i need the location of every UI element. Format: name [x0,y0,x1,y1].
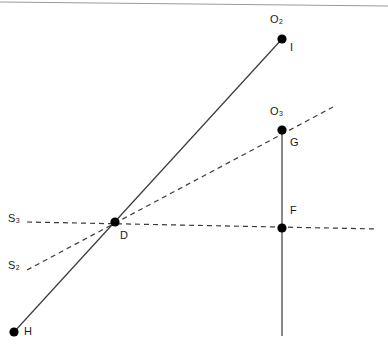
diagram-canvas [0,0,388,349]
point-label-I: I [290,42,293,53]
top-border-line [0,2,388,6]
point-dot-O3-G [277,125,286,134]
point-label-F: F [290,205,297,216]
line-segment-S3 [27,222,378,229]
line-segment-S2 [27,107,333,270]
point-dot-F [277,223,286,232]
point-label-S2: S₂ [8,260,20,271]
point-label-O3: O₃ [270,106,283,117]
point-dot-O2-I [277,34,286,43]
point-label-G: G [290,137,299,148]
point-dot-D [110,217,119,226]
point-label-S3: S₃ [8,213,20,224]
line-segment-H-I [14,39,282,332]
geometric-diagram: O₂ I O₃ G F D H S₃ S₂ [0,0,388,349]
point-label-H: H [24,326,32,337]
point-dot-H [9,327,18,336]
point-label-O2: O₂ [270,14,283,25]
point-label-D: D [120,230,128,241]
